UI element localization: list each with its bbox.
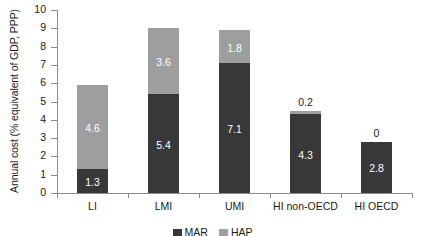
bar-segment-hap[interactable] [290,111,321,115]
legend-swatch [173,229,182,236]
bar-value-label-hap: 4.6 [77,122,108,134]
bar-stack[interactable]: 2.8 [361,142,392,193]
x-axis-tick [57,193,58,198]
legend-swatch [219,229,228,236]
y-axis-tick-label: 8 [16,40,46,52]
bar-value-label-hap: 0 [361,127,392,139]
x-axis-tick [128,193,129,198]
y-axis-tick [51,28,57,29]
y-axis-tick [51,83,57,84]
bar-value-label-mar: 2.8 [361,162,392,174]
y-axis-tick [51,47,57,48]
y-axis-tick-label: 3 [16,131,46,143]
x-axis-tick [199,193,200,198]
bar-stack[interactable]: 1.34.6 [77,85,108,193]
legend-label: MAR [185,228,208,236]
y-axis-tick [51,10,57,11]
bar-value-label-mar: 5.4 [148,139,179,151]
x-axis-category-label: LI [57,200,128,212]
y-axis-tick [51,138,57,139]
y-axis-tick-label: 5 [16,95,46,107]
y-axis-tick [51,65,57,66]
x-axis-tick [341,193,342,198]
y-axis-tick-label: 1 [16,168,46,180]
bar-stack[interactable]: 7.11.8 [219,30,250,193]
chart-legend: MARHAP [0,228,425,236]
legend-item[interactable]: MAR [173,228,208,236]
bar-value-label-mar: 1.3 [77,176,108,188]
y-axis-tick-label: 7 [16,58,46,70]
y-axis-line [57,10,58,194]
y-axis-tick-label: 2 [16,149,46,161]
legend-item[interactable]: HAP [219,228,253,236]
x-axis-category-label: UMI [199,200,270,212]
y-axis-tick [51,175,57,176]
y-axis-tick-label: 0 [16,186,46,198]
y-axis-tick [51,120,57,121]
x-axis-category-label: HI OECD [341,200,412,212]
y-axis-tick-label: 10 [16,3,46,15]
y-axis-tick-label: 6 [16,76,46,88]
bar-value-label-mar: 4.3 [290,149,321,161]
legend-label: HAP [231,228,253,236]
bar-value-label-mar: 7.1 [219,123,250,135]
bar-value-label-hap: 1.8 [219,42,250,54]
bar-chart: Annual cost (% equivalent of GDP, PPP) 1… [0,0,425,236]
x-axis-category-label: HI non-OECD [270,200,341,212]
x-axis-tick [270,193,271,198]
x-axis-category-label: LMI [128,200,199,212]
y-axis-tick [51,156,57,157]
bar-value-label-hap: 3.6 [148,56,179,68]
bar-stack[interactable]: 5.43.6 [148,28,179,193]
bar-value-label-hap: 0.2 [290,96,321,108]
y-axis-tick-label: 4 [16,113,46,125]
y-axis-tick-label: 9 [16,21,46,33]
bar-stack[interactable]: 4.3 [290,111,321,193]
x-axis-line [57,193,412,194]
x-axis-tick [412,193,413,198]
y-axis-tick [51,102,57,103]
